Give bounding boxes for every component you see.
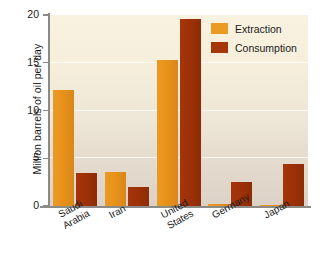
y-tick-mark <box>43 62 49 63</box>
y-tick-label: 10 <box>0 104 39 116</box>
bar-iran-extraction <box>105 172 126 206</box>
y-tick-label: 15 <box>0 56 39 68</box>
gridline <box>49 110 308 111</box>
bar-chart: Million barrels of oil per day 05101520 … <box>0 0 322 259</box>
y-tick-mark <box>43 158 49 159</box>
legend-label: Extraction <box>235 23 282 35</box>
bar-saudi-arabia-extraction <box>53 90 74 207</box>
legend-item-extraction: Extraction <box>211 20 297 37</box>
y-tick-mark <box>43 14 49 15</box>
legend-label: Consumption <box>235 42 297 54</box>
y-tick-label: 0 <box>0 199 39 211</box>
gridline <box>49 157 308 158</box>
bar-united-states-consumption <box>180 19 201 206</box>
bar-iran-consumption <box>128 187 149 206</box>
y-tick-mark <box>43 205 49 206</box>
gridline <box>49 62 308 63</box>
legend-item-consumption: Consumption <box>211 39 297 56</box>
legend-swatch-consumption <box>211 42 228 53</box>
legend-swatch-extraction <box>211 23 228 34</box>
gridline <box>49 14 308 15</box>
y-tick-mark <box>43 110 49 111</box>
legend: ExtractionConsumption <box>211 20 297 58</box>
bar-united-states-extraction <box>157 60 178 206</box>
y-tick-label: 20 <box>0 8 39 20</box>
y-tick-label: 5 <box>0 151 39 163</box>
